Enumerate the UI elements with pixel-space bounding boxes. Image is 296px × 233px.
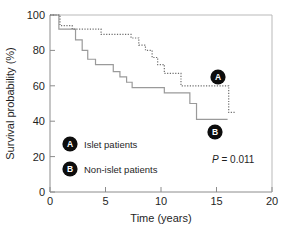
p-rest: = 0.011 — [219, 154, 255, 165]
survival-curve-non-islet — [50, 15, 228, 119]
x-tick-label-10: 10 — [155, 195, 167, 207]
p-value-annotation: P = 0.011 — [212, 154, 255, 165]
x-axis-title: Time (years) — [130, 212, 191, 224]
legend: A Islet patients B Non-islet patients — [62, 136, 157, 176]
x-tick-label-15: 15 — [210, 195, 222, 207]
curve-layer — [50, 15, 235, 119]
y-axis-tick-labels: 100 80 60 40 20 0 — [27, 9, 45, 198]
legend-entry-non-islet: B Non-islet patients — [62, 161, 157, 176]
x-tick-label-0: 0 — [47, 195, 53, 207]
marker-a-letter: A — [215, 72, 221, 82]
x-axis-tick-labels: 0 5 10 15 20 — [47, 195, 278, 207]
x-tick-label-20: 20 — [266, 195, 278, 207]
y-axis-ticks — [50, 15, 55, 192]
legend-entry-islet: A Islet patients — [62, 136, 137, 151]
y-tick-label-0: 0 — [39, 186, 45, 198]
legend-marker-a-letter: A — [67, 139, 73, 149]
marker-b-letter: B — [212, 127, 218, 137]
y-tick-label-60: 60 — [33, 80, 45, 92]
y-tick-label-20: 20 — [33, 151, 45, 163]
chart-canvas: 100 80 60 40 20 0 0 5 10 15 20 Time (yea… — [0, 0, 296, 233]
survival-curve-figure: 100 80 60 40 20 0 0 5 10 15 20 Time (yea… — [0, 0, 296, 233]
survival-curve-islet — [50, 15, 235, 112]
legend-label-islet: Islet patients — [84, 139, 138, 150]
x-tick-label-5: 5 — [102, 195, 108, 207]
curve-marker-b: B — [207, 124, 222, 139]
x-axis-ticks — [50, 187, 272, 192]
y-tick-label-40: 40 — [33, 115, 45, 127]
y-tick-label-80: 80 — [33, 44, 45, 56]
curve-marker-a: A — [210, 69, 225, 84]
legend-label-non-islet: Non-islet patients — [84, 164, 158, 175]
legend-marker-b-letter: B — [67, 164, 73, 174]
p-value-text: P = 0.011 — [212, 154, 255, 165]
y-axis-title: Survival probability (%) — [4, 47, 16, 159]
y-tick-label-100: 100 — [27, 9, 45, 21]
